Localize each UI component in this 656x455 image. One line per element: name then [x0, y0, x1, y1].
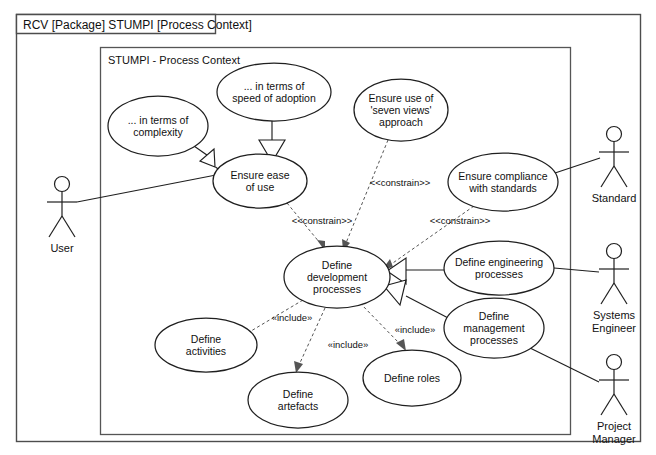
use-case-label-line: processes: [470, 334, 518, 346]
use-case-label-line: Ensure ease: [231, 169, 290, 181]
stereo-include-2: «include»: [328, 339, 369, 350]
frame-tab-label: RCV [Package] STUMPI [Process Context]: [23, 18, 252, 32]
uc-define-engineering-processes[interactable]: Define engineeringprocesses: [444, 241, 554, 295]
actor-label: Systems: [593, 309, 636, 321]
use-case-label-line: Ensure compliance: [458, 170, 547, 182]
use-case-label-line: management: [463, 322, 524, 334]
actor-label: Manager: [592, 433, 636, 445]
use-case-label-line: ... in terms of: [128, 114, 189, 126]
use-case-label-line: of use: [246, 181, 275, 193]
use-case-label-line: Define: [479, 310, 510, 322]
use-case-label-line: processes: [313, 283, 361, 295]
use-case-label-line: speed of adoption: [232, 92, 316, 104]
stereo-constrain-1: <<constrain>>: [292, 215, 353, 226]
uml-diagram-svg: RCV [Package] STUMPI [Process Context] S…: [0, 0, 656, 455]
uc-define-roles[interactable]: Define roles: [363, 350, 461, 406]
use-case-label-line: Define engineering: [455, 256, 543, 268]
actor-label: Standard: [592, 192, 637, 204]
stereo-constrain-3: <<constrain>>: [430, 215, 491, 226]
uc-ensure-ease-of-use[interactable]: Ensure easeof use: [213, 154, 307, 208]
use-case-label-line: Define: [191, 333, 222, 345]
actor-label: Project: [597, 420, 631, 432]
use-case-label-line: with standards: [468, 182, 537, 194]
stereo-include-1: «include»: [272, 312, 313, 323]
use-case-label-line: Define: [283, 388, 314, 400]
use-case-label-line: 'seven views': [370, 104, 431, 116]
uc-define-management-processes[interactable]: Definemanagementprocesses: [444, 298, 544, 358]
uc-ensure-use-of-seven-views-approach[interactable]: Ensure use of'seven views'approach: [354, 79, 448, 141]
uc-in-terms-of-speed-of-adoption[interactable]: ... in terms ofspeed of adoption: [217, 63, 331, 121]
uc-define-development-processes[interactable]: Definedevelopmentprocesses: [284, 246, 390, 308]
stereo-include-3: «include»: [395, 324, 436, 335]
use-case-label-line: Define roles: [384, 372, 440, 384]
actor-label: Engineer: [592, 322, 636, 334]
use-case-label-line: processes: [475, 268, 523, 280]
use-case-label-line: ... in terms of: [244, 80, 305, 92]
uc-ensure-compliance-with-standards[interactable]: Ensure compliancewith standards: [448, 153, 558, 211]
use-case-label-line: Ensure use of: [369, 92, 434, 104]
use-case-label-line: Define: [322, 259, 353, 271]
uc-define-activities[interactable]: Defineactivities: [155, 318, 257, 372]
use-case-label-line: complexity: [133, 126, 183, 138]
use-case-label-line: activities: [186, 345, 226, 357]
use-case-label-line: artefacts: [278, 400, 318, 412]
uc-define-artefacts[interactable]: Defineartefacts: [248, 372, 348, 428]
use-case-label-line: approach: [379, 116, 423, 128]
actor-label: User: [50, 242, 74, 254]
use-case-label-line: development: [307, 271, 367, 283]
stereo-constrain-2: <<constrain>>: [370, 177, 431, 188]
uc-in-terms-of-complexity[interactable]: ... in terms ofcomplexity: [108, 96, 208, 156]
inner-frame-label: STUMPI - Process Context: [108, 54, 240, 66]
use-case-diagram-canvas: RCV [Package] STUMPI [Process Context] S…: [0, 0, 656, 455]
